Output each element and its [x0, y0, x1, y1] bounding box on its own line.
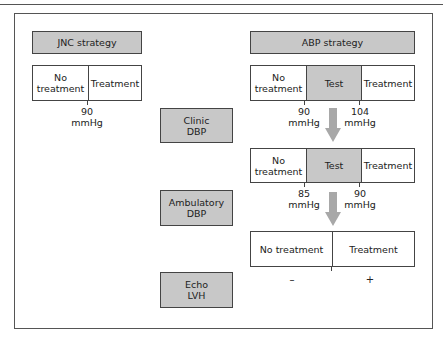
row2-tick-low	[304, 182, 305, 187]
row2-treatment: Treatment	[361, 149, 414, 182]
positive-sign: +	[364, 274, 376, 285]
row2-tick-high	[359, 182, 360, 187]
jnc-strategy-header: JNC strategy	[32, 31, 142, 54]
jnc-decision-bar: No treatment Treatment	[32, 65, 142, 101]
abp-strategy-label: ABP strategy	[302, 37, 363, 48]
jnc-treatment: Treatment	[88, 66, 141, 100]
row1-threshold-low: 90mmHg	[284, 106, 324, 128]
negative-sign: –	[286, 274, 298, 285]
abp-strategy-header: ABP strategy	[250, 31, 415, 54]
row1-test: Test	[306, 66, 361, 100]
ambulatory-dbp-box: AmbulatoryDBP	[160, 190, 233, 226]
down-arrow-icon	[325, 192, 341, 226]
row1-treatment: Treatment	[361, 66, 414, 100]
row3-treatment: Treatment	[332, 232, 414, 266]
jnc-threshold-value: 90mmHg	[67, 106, 107, 128]
jnc-threshold-tick	[87, 100, 88, 105]
row1-tick-high	[359, 100, 360, 105]
down-arrow-icon	[325, 108, 341, 142]
abp-row1-bar: No treatment Test Treatment	[250, 65, 415, 101]
echo-lvh-box: EchoLVH	[160, 272, 233, 308]
row1-tick-low	[304, 100, 305, 105]
abp-row3-bar: No treatment Treatment	[250, 231, 415, 267]
jnc-no-treatment: No treatment	[33, 66, 88, 100]
row2-no-treatment: No treatment	[251, 149, 306, 182]
abp-row2-bar: No treatment Test Treatment	[250, 148, 415, 183]
row3-no-treatment: No treatment	[251, 232, 332, 266]
top-rule	[0, 4, 443, 5]
row2-threshold-high: 90mmHg	[340, 188, 380, 210]
row3-tick	[331, 266, 332, 271]
row1-no-treatment: No treatment	[251, 66, 306, 100]
row2-threshold-low: 85mmHg	[284, 188, 324, 210]
jnc-strategy-label: JNC strategy	[57, 37, 116, 48]
row2-test: Test	[306, 149, 361, 182]
clinic-dbp-box: ClinicDBP	[160, 108, 233, 143]
row1-threshold-high: 104mmHg	[340, 106, 380, 128]
